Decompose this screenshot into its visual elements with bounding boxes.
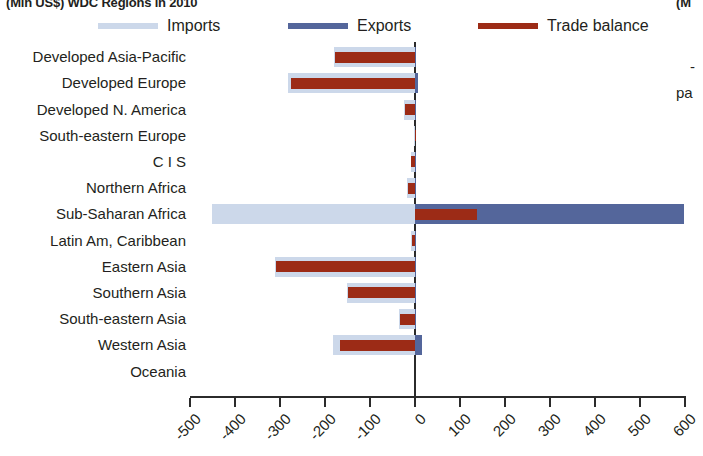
- bar-exports: [415, 335, 422, 355]
- category-label: Oceania: [130, 364, 186, 379]
- chart-root: (Mln US$) WDC Regions in 2010 (M Imports…: [0, 0, 703, 456]
- bar-trade-balance: [412, 235, 415, 246]
- category-label: South-eastern Europe: [39, 128, 186, 143]
- x-tick: [414, 398, 416, 407]
- plot-area: -500-400-300-200-1000100200300400500600: [190, 42, 685, 398]
- x-tick-label: 100: [431, 410, 474, 453]
- x-tick: [324, 398, 326, 407]
- x-tick: [369, 398, 371, 407]
- bar-trade-balance: [291, 78, 415, 89]
- x-tick-label: 0: [386, 410, 429, 453]
- bar-imports: [212, 204, 415, 224]
- category-label: Northern Africa: [86, 180, 186, 195]
- chart-title-left: (Mln US$) WDC Regions in 2010: [6, 0, 197, 10]
- chart-title-right: (M: [676, 0, 691, 10]
- legend-trade-balance-swatch: [478, 23, 538, 29]
- x-tick: [234, 398, 236, 407]
- margin-fragment-dash: -: [690, 58, 695, 75]
- legend-trade-balance-label: Trade balance: [547, 18, 649, 34]
- category-label: Southern Asia: [93, 285, 186, 300]
- legend-trade-balance[interactable]: Trade balance: [478, 14, 649, 38]
- category-label: Eastern Asia: [102, 259, 186, 274]
- x-tick: [279, 398, 281, 407]
- x-tick-label: 400: [566, 410, 609, 453]
- x-tick-label: 300: [521, 410, 564, 453]
- legend-imports-swatch: [98, 23, 158, 29]
- margin-fragment-pa: pa: [676, 84, 693, 101]
- legend-exports-label: Exports: [357, 18, 411, 34]
- x-tick-label: 500: [611, 410, 654, 453]
- bar-trade-balance: [335, 52, 415, 63]
- legend-imports-label: Imports: [167, 18, 220, 34]
- x-tick: [189, 398, 191, 407]
- x-tick-label: -500: [161, 410, 204, 453]
- x-tick: [459, 398, 461, 407]
- bar-trade-balance: [276, 261, 416, 272]
- bar-exports: [415, 73, 418, 93]
- x-tick: [684, 398, 686, 407]
- x-tick-label: 200: [476, 410, 519, 453]
- bar-trade-balance: [408, 183, 415, 194]
- x-tick-label: -100: [341, 410, 384, 453]
- legend-exports[interactable]: Exports: [288, 14, 411, 38]
- x-tick: [639, 398, 641, 407]
- category-label: Developed Asia-Pacific: [33, 49, 186, 64]
- category-label: Western Asia: [98, 337, 186, 352]
- category-label: Developed Europe: [62, 75, 186, 90]
- category-label: South-eastern Asia: [59, 311, 186, 326]
- category-label: Latin Am, Caribbean: [50, 233, 186, 248]
- chart-legend: ImportsExportsTrade balance: [0, 14, 703, 38]
- bar-exports: [415, 257, 416, 277]
- x-tick-label: 600: [656, 410, 699, 453]
- bar-trade-balance: [411, 156, 415, 167]
- bar-trade-balance: [405, 104, 415, 115]
- legend-imports[interactable]: Imports: [98, 14, 220, 38]
- bar-trade-balance: [340, 340, 415, 351]
- x-tick: [504, 398, 506, 407]
- category-label: Sub-Saharan Africa: [56, 206, 186, 221]
- x-tick-label: -300: [251, 410, 294, 453]
- bar-exports: [415, 47, 416, 67]
- x-tick: [594, 398, 596, 407]
- x-tick: [549, 398, 551, 407]
- bar-trade-balance: [348, 287, 416, 298]
- bar-trade-balance: [400, 314, 415, 325]
- category-label: C I S: [153, 154, 186, 169]
- category-label: Developed N. America: [37, 102, 186, 117]
- legend-exports-swatch: [288, 23, 348, 29]
- bar-trade-balance: [415, 209, 477, 220]
- x-tick-label: -400: [206, 410, 249, 453]
- x-axis-line: [190, 396, 686, 398]
- x-tick-label: -200: [296, 410, 339, 453]
